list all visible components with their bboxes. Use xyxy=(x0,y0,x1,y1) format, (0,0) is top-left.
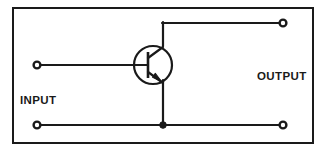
output-negative-terminal[interactable] xyxy=(280,122,287,129)
input-negative-terminal[interactable] xyxy=(34,122,41,129)
input-label: INPUT xyxy=(20,94,57,106)
transistor-emitter-arrow-icon xyxy=(153,73,162,81)
transistor-collector-lead xyxy=(148,47,163,58)
emitter-ground-junction xyxy=(160,122,167,129)
diagram-canvas: INPUT OUTPUT xyxy=(0,0,327,152)
input-positive-terminal[interactable] xyxy=(34,62,41,69)
circuit-schematic: INPUT OUTPUT xyxy=(0,0,327,152)
output-positive-terminal[interactable] xyxy=(280,20,287,27)
output-label: OUTPUT xyxy=(257,70,307,82)
